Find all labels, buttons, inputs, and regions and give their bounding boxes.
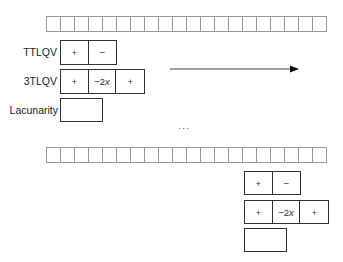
strip-cell [103,17,117,31]
kernel-cell-value: − [283,178,289,189]
kernel-cell-minus-2x: −2x [89,70,117,93]
strip-cell [47,17,61,31]
kernel-cell-plus: + [245,201,273,223]
kernel-cell-italic-x: x [289,207,294,218]
strip-cell [285,17,299,31]
strip-cell [215,17,229,31]
strip-cell [271,17,285,31]
strip-cell [299,148,313,162]
strip-cell [103,148,117,162]
bottom-3tlqv-kernel: + −2x + [244,200,329,224]
strip-cell [145,148,159,162]
strip-cell [187,17,201,31]
lacunarity-label: Lacunarity [0,104,58,116]
strip-cell [257,148,271,162]
kernel-cell-value: + [256,207,262,218]
strip-cell [173,17,187,31]
strip-cell [243,17,257,31]
strip-cell [117,148,131,162]
kernel-cell-plus: + [245,172,273,194]
bottom-ttlqv-kernel: + − [244,171,301,195]
strip-cell [285,148,299,162]
ellipsis: ··· [178,123,190,133]
strip-cell [201,17,215,31]
kernel-cell-value: + [72,76,78,87]
kernel-cell-minus-2x: −2x [273,201,301,223]
strip-cell [89,148,103,162]
strip-cell [159,17,173,31]
strip-cell [299,17,313,31]
kernel-cell-plus: + [300,201,328,223]
strip-cell [131,17,145,31]
strip-cell [257,17,271,31]
kernel-cell-minus: − [273,172,300,194]
strip-cell [173,148,187,162]
kernel-cell-plus: + [61,41,89,64]
strip-cell [187,148,201,162]
top-lacunarity-box [60,98,103,122]
strip-cell [61,148,75,162]
strip-cell [313,17,327,31]
bottom-data-strip [46,147,327,163]
kernel-cell-minus: − [89,41,116,64]
strip-cell [201,148,215,162]
top-3tlqv-kernel: + −2x + [60,69,145,94]
strip-cell [159,148,173,162]
kernel-cell-value: + [255,178,261,189]
kernel-cell-value: −2 [278,207,289,218]
top-ttlqv-kernel: + − [60,40,117,65]
strip-cell [243,148,257,162]
kernel-cell-value: − [99,47,105,58]
kernel-cell-value: −2 [94,76,105,87]
strip-cell [75,17,89,31]
kernel-cell-value: + [127,76,133,87]
strip-cell [61,17,75,31]
strip-cell [89,17,103,31]
kernel-cell-plus: + [61,70,89,93]
strip-cell [131,148,145,162]
strip-cell [271,148,285,162]
strip-cell [145,17,159,31]
strip-cell [47,148,61,162]
strip-cell [229,148,243,162]
strip-cell [313,148,327,162]
kernel-cell-plus: + [116,70,144,93]
kernel-cell-value: + [71,47,77,58]
strip-cell [215,148,229,162]
kernel-cell-value: + [311,207,317,218]
right-arrow-icon [168,64,302,74]
strip-cell [229,17,243,31]
strip-cell [117,17,131,31]
ttlqv-label: TTLQV [4,46,57,58]
strip-cell [75,148,89,162]
kernel-cell-italic-x: x [105,76,110,87]
3tlqv-label: 3TLQV [4,75,57,87]
top-data-strip [46,16,327,32]
bottom-lacunarity-box [244,228,287,252]
